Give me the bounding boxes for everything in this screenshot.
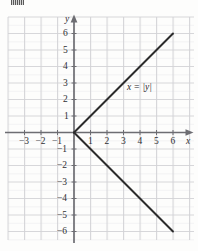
x-axis-label: x <box>186 137 190 147</box>
y-tick-label--6: −6 <box>57 227 67 237</box>
x-axis <box>5 129 194 136</box>
x-tick-label-1: 1 <box>88 137 93 147</box>
y-tick-label-2: 2 <box>63 95 68 105</box>
x-tick-label--3: −3 <box>19 137 29 147</box>
x-tick-label--2: −2 <box>36 137 46 147</box>
plot-svg <box>0 0 198 251</box>
plot-area: −3 −2 −1 1 2 3 4 5 6 6 5 4 3 2 1 −1 −2 −… <box>0 0 198 251</box>
y-tick-label--5: −5 <box>57 211 67 221</box>
y-tick-label--1: −1 <box>57 145 67 155</box>
y-tick-label--3: −3 <box>57 178 67 188</box>
graph-figure: −3 −2 −1 1 2 3 4 5 6 6 5 4 3 2 1 −1 −2 −… <box>0 0 198 251</box>
y-tick-label-3: 3 <box>63 79 68 89</box>
x-tick-label-3: 3 <box>121 137 126 147</box>
equation-annotation: x = |y| <box>127 83 152 93</box>
y-tick-label-1: 1 <box>64 112 69 122</box>
y-tick-label-5: 5 <box>63 46 68 56</box>
y-tick-label-4: 4 <box>63 62 68 72</box>
y-tick-label-6: 6 <box>63 29 68 39</box>
y-axis-label: y <box>65 15 69 25</box>
x-tick-label-2: 2 <box>105 137 110 147</box>
x-tick-label-6: 6 <box>171 137 176 147</box>
x-tick-label-5: 5 <box>154 137 159 147</box>
y-axis-arrow-icon <box>71 15 78 23</box>
y-tick-label--2: −2 <box>57 161 67 171</box>
y-tick-label--4: −4 <box>57 194 67 204</box>
y-axis <box>71 15 78 244</box>
x-tick-label-4: 4 <box>138 137 143 147</box>
